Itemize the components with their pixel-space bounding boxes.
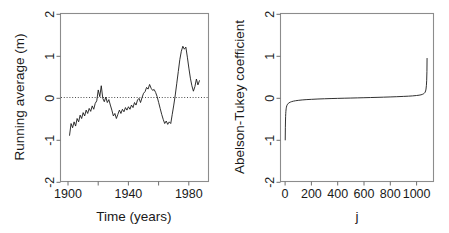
left-y-tick-label: 0 (43, 95, 57, 102)
right-panel-svg: 2 1 0 -1 -2 0 200 400 600 800 1000 (225, 0, 449, 233)
right-y-tick-label: 0 (263, 95, 277, 102)
right-x-tick-label: 400 (327, 187, 348, 201)
left-y-ticks (57, 14, 61, 182)
right-x-tick-label: 1000 (403, 187, 431, 201)
left-x-tick-label: 1900 (54, 187, 82, 201)
chart-panel-right: 2 1 0 -1 -2 0 200 400 600 800 1000 (225, 0, 449, 233)
right-y-tick-label: -2 (263, 177, 277, 188)
right-x-tick-label: 600 (354, 187, 375, 201)
left-x-ticks (68, 182, 189, 186)
right-x-tick-label: 200 (301, 187, 322, 201)
left-panel-svg: 2 1 0 -1 -2 1900 1940 1980 Time (y (0, 0, 225, 233)
left-y-tick-labels: 2 1 0 -1 -2 (43, 11, 57, 188)
right-y-tick-label: 2 (263, 11, 277, 18)
chart-panel-left: 2 1 0 -1 -2 1900 1940 1980 Time (y (0, 0, 225, 233)
right-x-ticks (285, 182, 417, 186)
left-data-series (70, 46, 200, 135)
right-y-tick-label: 1 (263, 53, 277, 60)
left-y-axis-title: Running average (m) (12, 34, 27, 161)
figure-container: 2 1 0 -1 -2 1900 1940 1980 Time (y (0, 0, 449, 233)
left-y-tick-label: 1 (43, 53, 57, 60)
left-x-axis-title: Time (years) (96, 209, 171, 224)
left-y-tick-label: 2 (43, 11, 57, 18)
left-y-tick-label: -1 (43, 135, 57, 146)
right-y-axis-title: Abelson-Tukey coefficient (232, 20, 247, 174)
left-x-tick-labels: 1900 1940 1980 (54, 187, 203, 201)
right-x-tick-labels: 0 200 400 600 800 1000 (282, 187, 431, 201)
left-x-tick-label: 1980 (175, 187, 203, 201)
left-x-tick-label: 1940 (114, 187, 142, 201)
right-y-tick-labels: 2 1 0 -1 -2 (263, 11, 277, 188)
right-x-tick-label: 800 (380, 187, 401, 201)
right-x-axis-title: j (355, 209, 359, 224)
right-y-tick-label: -1 (263, 135, 277, 146)
right-data-series (285, 58, 427, 139)
right-x-tick-label: 0 (282, 187, 289, 201)
right-y-ticks (277, 14, 281, 182)
